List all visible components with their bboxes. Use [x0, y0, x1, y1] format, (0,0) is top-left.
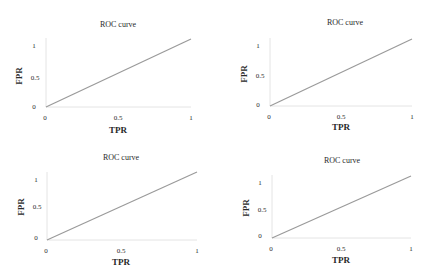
x-tick-0.5: 0.5	[117, 247, 126, 255]
x-tick-0: 0	[43, 114, 47, 122]
y-tick-0: 0	[32, 103, 36, 111]
chart-title: ROC curve	[324, 156, 361, 165]
x-axis-label: TPR	[109, 125, 128, 135]
chart-canvas: ROC curve 1 0.5 0 0 0.5 1 TPR FPR	[0, 140, 215, 280]
y-axis-label: FPR	[16, 198, 26, 216]
y-tick-1: 1	[256, 42, 260, 50]
x-tick-1: 1	[409, 245, 413, 253]
roc-line	[272, 176, 411, 238]
roc-line	[270, 39, 412, 106]
chart-title: ROC curve	[100, 20, 137, 29]
y-tick-0: 0	[34, 234, 38, 242]
chart-title: ROC curve	[103, 153, 140, 162]
roc-chart-bottom-left: ROC curve 1 0.5 0 0 0.5 1 TPR FPR	[0, 140, 215, 280]
x-tick-0.5: 0.5	[337, 113, 346, 121]
x-tick-0: 0	[267, 113, 271, 121]
x-tick-1: 1	[195, 247, 199, 255]
chart-canvas: ROC curve 1 0.5 0 0 0.5 1 TPR FPR	[0, 0, 215, 140]
chart-title: ROC curve	[327, 18, 364, 27]
y-tick-0.5: 0.5	[258, 206, 267, 214]
y-tick-1: 1	[258, 179, 262, 187]
y-tick-0: 0	[258, 232, 262, 240]
x-axis-label: TPR	[112, 257, 131, 267]
roc-chart-top-right: ROC curve 1 0.5 0 0 0.5 1 TPR FPR	[215, 0, 429, 140]
y-tick-0.5: 0.5	[31, 74, 40, 82]
x-tick-0: 0	[44, 247, 48, 255]
y-tick-1: 1	[34, 176, 38, 184]
roc-line	[47, 172, 197, 240]
y-axis-label: FPR	[14, 67, 24, 85]
roc-chart-bottom-right: ROC curve 1 0.5 0 0 0.5 1 TPR FPR	[215, 140, 429, 280]
x-tick-0.5: 0.5	[337, 245, 346, 253]
chart-canvas: ROC curve 1 0.5 0 0 0.5 1 TPR FPR	[215, 140, 429, 280]
chart-canvas: ROC curve 1 0.5 0 0 0.5 1 TPR FPR	[215, 0, 429, 140]
y-axis-label: FPR	[239, 65, 249, 83]
x-tick-1: 1	[410, 113, 414, 121]
x-axis-label: TPR	[332, 255, 351, 265]
x-tick-1: 1	[189, 114, 193, 122]
x-axis-label: TPR	[332, 122, 351, 132]
y-tick-0: 0	[256, 101, 260, 109]
y-tick-1: 1	[32, 42, 36, 50]
roc-line	[46, 39, 191, 107]
x-tick-0: 0	[269, 245, 273, 253]
y-axis-label: FPR	[241, 199, 251, 217]
roc-chart-top-left: ROC curve 1 0.5 0 0 0.5 1 TPR FPR	[0, 0, 215, 140]
y-tick-0.5: 0.5	[256, 72, 265, 80]
y-tick-0.5: 0.5	[33, 203, 42, 211]
x-tick-0.5: 0.5	[114, 114, 123, 122]
